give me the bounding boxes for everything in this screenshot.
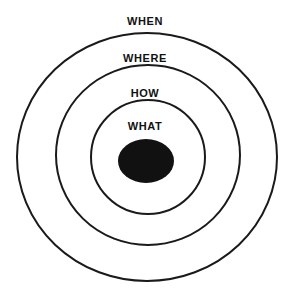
core-filled-circle [118,139,174,183]
ring-label-what: WHAT [0,120,290,132]
rings-graphic [0,0,290,298]
ring-label-how: HOW [0,87,290,99]
ring-label-where: WHERE [0,52,290,64]
ring-label-when: WHEN [0,15,290,27]
concentric-circles-diagram: WHEN WHERE HOW WHAT [0,0,290,298]
